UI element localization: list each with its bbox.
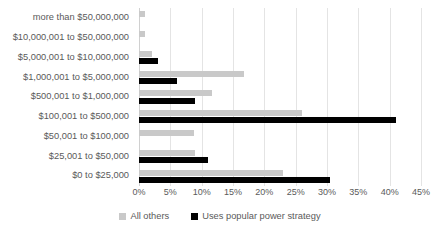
bar-all-others <box>139 90 212 96</box>
legend-label: Uses popular power strategy <box>202 212 320 221</box>
category-label: $25,001 to $50,000 <box>0 146 134 166</box>
bar-row <box>139 8 421 28</box>
chart-legend: All othersUses popular power strategy <box>0 212 440 221</box>
bar-row <box>139 127 421 147</box>
bar-uses-popular-power-strategy <box>139 98 195 104</box>
category-label: $50,001 to $100,000 <box>0 127 134 147</box>
bar-row <box>139 28 421 48</box>
legend-item[interactable]: All others <box>119 212 169 221</box>
legend-swatch-icon <box>119 213 126 220</box>
bar-all-others <box>139 110 302 116</box>
legend-swatch-icon <box>191 213 198 220</box>
x-tick-label: 20% <box>255 188 273 197</box>
bar-row <box>139 146 421 166</box>
bar-all-others <box>139 11 145 17</box>
bar-all-others <box>139 31 145 37</box>
bar-uses-popular-power-strategy <box>139 157 208 163</box>
x-tick-label: 25% <box>287 188 305 197</box>
bar-row <box>139 67 421 87</box>
bar-row <box>139 107 421 127</box>
x-tick-label: 15% <box>224 188 242 197</box>
x-tick-label: 45% <box>412 188 430 197</box>
bar-rows <box>139 8 421 186</box>
bar-all-others <box>139 150 195 156</box>
category-label: $0 to $25,000 <box>0 166 134 186</box>
bar-all-others <box>139 71 244 77</box>
category-label: $5,000,001 to $10,000,000 <box>0 48 134 68</box>
category-label: more than $50,000,000 <box>0 8 134 28</box>
x-axis: 0%5%10%15%20%25%30%35%40%45% <box>139 186 421 202</box>
x-tick-label: 40% <box>381 188 399 197</box>
bar-chart: more than $50,000,000$10,000,001 to $50,… <box>0 0 440 241</box>
bar-uses-popular-power-strategy <box>139 58 158 64</box>
plot-area <box>139 8 421 186</box>
bar-uses-popular-power-strategy <box>139 117 396 123</box>
bar-all-others <box>139 170 283 176</box>
category-axis: more than $50,000,000$10,000,001 to $50,… <box>0 8 134 186</box>
category-label: $10,000,001 to $50,000,000 <box>0 28 134 48</box>
x-tick-label: 0% <box>132 188 145 197</box>
x-tick-label: 35% <box>349 188 367 197</box>
category-label: $500,001 to $1,000,000 <box>0 87 134 107</box>
x-tick-label: 5% <box>164 188 177 197</box>
bar-row <box>139 87 421 107</box>
x-tick-label: 10% <box>193 188 211 197</box>
gridline <box>421 8 422 186</box>
bar-all-others <box>139 130 194 136</box>
x-tick-label: 30% <box>318 188 336 197</box>
legend-label: All others <box>130 212 169 221</box>
bar-uses-popular-power-strategy <box>139 78 177 84</box>
bar-row <box>139 48 421 68</box>
category-label: $100,001 to $500,000 <box>0 107 134 127</box>
legend-item[interactable]: Uses popular power strategy <box>191 212 320 221</box>
bar-row <box>139 166 421 186</box>
category-label: $1,000,001 to $5,000,000 <box>0 67 134 87</box>
bar-all-others <box>139 51 152 57</box>
bar-uses-popular-power-strategy <box>139 177 330 183</box>
